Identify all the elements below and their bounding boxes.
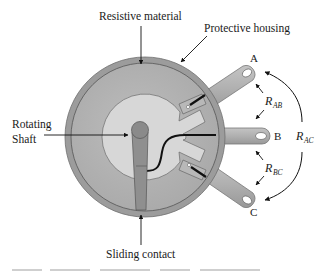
arrow-protective-housing bbox=[181, 36, 207, 62]
svg-text:R: R bbox=[295, 129, 304, 143]
arrow-rac-bottom bbox=[265, 152, 302, 200]
svg-text:BC: BC bbox=[273, 168, 284, 177]
rivet-a-icon bbox=[186, 105, 189, 108]
svg-text:AB: AB bbox=[272, 101, 283, 110]
label-terminal-b: B bbox=[274, 130, 281, 142]
svg-text:R: R bbox=[264, 161, 273, 175]
label-shaft: Shaft bbox=[12, 133, 37, 145]
rotating-shaft bbox=[132, 122, 149, 139]
label-protective-housing: Protective housing bbox=[204, 22, 290, 35]
rivet-c-icon bbox=[187, 163, 190, 166]
arrow-rab-up bbox=[256, 84, 263, 93]
arrow-rbc-down bbox=[256, 176, 264, 185]
label-resistive-material: Resistive material bbox=[99, 10, 182, 22]
label-terminal-c: C bbox=[250, 206, 257, 218]
label-rac: R AC bbox=[295, 129, 315, 145]
svg-text:R: R bbox=[264, 94, 273, 108]
potentiometer-diagram: Resistive material Protective housing Ro… bbox=[0, 0, 326, 271]
arrow-rab-down bbox=[256, 110, 264, 119]
label-terminal-a: A bbox=[250, 52, 258, 64]
label-rotating: Rotating bbox=[12, 118, 52, 131]
label-sliding-contact: Sliding contact bbox=[106, 248, 176, 261]
label-rbc: R BC bbox=[264, 161, 284, 177]
arrow-rbc-up bbox=[256, 151, 263, 160]
svg-text:AC: AC bbox=[303, 136, 315, 145]
label-rab: R AB bbox=[264, 94, 283, 110]
